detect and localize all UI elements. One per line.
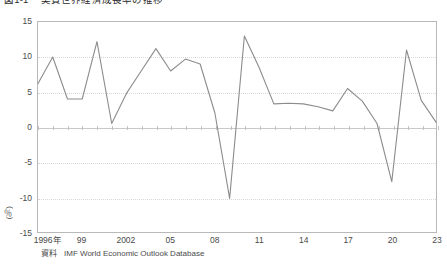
x-tick-label: 2002 <box>116 236 135 245</box>
source-text: IMF World Economic Outlook Database <box>64 249 204 258</box>
y-tick-label: -10 <box>6 194 32 203</box>
x-tick-label: 14 <box>299 236 308 245</box>
y-axis-unit-label: (％) <box>3 206 14 219</box>
y-tick-label: 15 <box>6 17 32 26</box>
x-tick-label: 20 <box>388 236 397 245</box>
source-note: 資料IMF World Economic Outlook Database <box>41 249 204 259</box>
y-tick-label: 0 <box>6 123 32 132</box>
x-tick-label: 05 <box>166 236 175 245</box>
x-tick-label: 08 <box>210 236 219 245</box>
x-tick-label: 1996年 <box>34 236 62 245</box>
series-line-chart <box>38 22 436 232</box>
plot-area <box>37 21 437 233</box>
x-tick-mark <box>438 126 439 130</box>
y-tick-label: -5 <box>6 158 32 167</box>
series-line <box>38 36 436 198</box>
y-tick-label: 5 <box>6 88 32 97</box>
chart-container: (％) 151050-5-10-15 1996年9920020508111417… <box>0 0 447 265</box>
x-tick-label: 17 <box>343 236 352 245</box>
source-label: 資料 <box>41 249 57 258</box>
x-tick-label: 99 <box>77 236 86 245</box>
x-tick-label: 23 <box>432 236 441 245</box>
x-tick-label: 11 <box>255 236 264 245</box>
y-tick-label: 10 <box>6 52 32 61</box>
y-tick-label: -15 <box>6 229 32 238</box>
